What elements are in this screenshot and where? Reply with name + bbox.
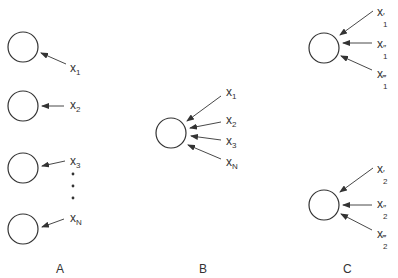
input-arrow-icon — [340, 11, 373, 35]
neuron-input-diagram — [0, 0, 398, 278]
input-label: x′2 — [377, 163, 393, 175]
input-label: x1 — [226, 86, 236, 101]
input-label: x″1 — [377, 38, 393, 50]
ellipsis-dot-icon — [72, 197, 75, 200]
input-label: x1 — [70, 62, 80, 77]
input-arrow-icon — [41, 53, 66, 64]
input-label: x‴2 — [377, 228, 393, 240]
neuron-node-c-1 — [309, 33, 339, 63]
group-label-c: C — [343, 262, 352, 276]
input-arrow-icon — [341, 56, 372, 70]
input-label: xN — [226, 156, 238, 171]
input-arrow-icon — [340, 168, 373, 192]
neuron-node-c-2 — [309, 190, 339, 220]
input-arrow-icon — [341, 214, 372, 230]
input-label: x2 — [226, 114, 236, 129]
input-arrow-icon — [191, 136, 221, 140]
neuron-node-a-4 — [8, 214, 38, 244]
group-label-a: A — [56, 262, 64, 276]
input-label: xN — [70, 212, 82, 227]
input-arrow-icon — [187, 96, 221, 121]
input-label: x″2 — [377, 198, 393, 210]
input-arrow-icon — [190, 122, 221, 128]
input-arrow-icon — [188, 145, 221, 159]
input-label: x3 — [226, 135, 236, 150]
input-label: x2 — [70, 99, 80, 114]
neuron-node-a-1 — [8, 32, 38, 62]
input-label: x3 — [70, 155, 80, 170]
neuron-node-a-2 — [8, 91, 38, 121]
group-label-b: B — [199, 262, 207, 276]
ellipsis-dot-icon — [72, 185, 75, 188]
input-arrow-icon — [42, 161, 65, 166]
input-label: x‴1 — [377, 68, 393, 80]
ellipsis-dot-icon — [72, 173, 75, 176]
input-label: x′1 — [377, 6, 393, 18]
neuron-node-b-1 — [156, 118, 186, 148]
neuron-node-a-3 — [8, 153, 38, 183]
input-arrow-icon — [42, 219, 64, 227]
